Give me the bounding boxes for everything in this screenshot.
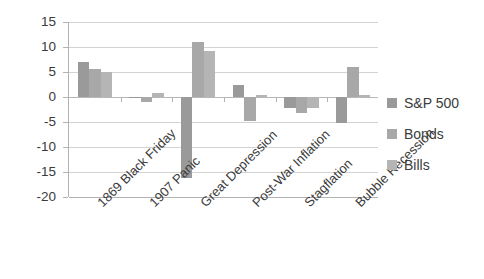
legend-item[interactable]: Bonds bbox=[387, 127, 459, 141]
x-axis-label: Stagflation bbox=[302, 157, 355, 210]
y-tick-mark bbox=[63, 147, 68, 148]
legend-swatch-icon bbox=[387, 98, 397, 108]
chart-legend: S&P 500BondsBills bbox=[387, 96, 459, 172]
legend-item[interactable]: Bills bbox=[387, 158, 459, 172]
legend-swatch-icon bbox=[387, 160, 397, 170]
y-tick-mark bbox=[63, 22, 68, 23]
bar-chart-figure: 151050-5-10-15-20 1869 Black Friday1907 … bbox=[0, 0, 484, 279]
y-tick-mark bbox=[63, 72, 68, 73]
y-tick-mark bbox=[63, 122, 68, 123]
y-tick-mark bbox=[63, 47, 68, 48]
y-tick-mark bbox=[63, 97, 68, 98]
legend-label: S&P 500 bbox=[404, 96, 459, 110]
legend-swatch-icon bbox=[387, 129, 397, 139]
x-axis-label: 1907 Panic bbox=[147, 154, 202, 209]
y-tick-mark bbox=[63, 197, 68, 198]
legend-label: Bills bbox=[404, 158, 430, 172]
legend-label: Bonds bbox=[404, 127, 444, 141]
y-tick-mark bbox=[63, 172, 68, 173]
legend-item[interactable]: S&P 500 bbox=[387, 96, 459, 110]
